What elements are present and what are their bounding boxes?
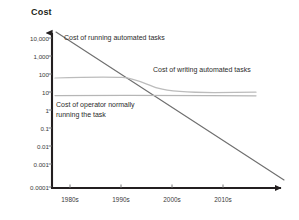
y-axis [49,33,53,188]
x-tick-label-2000s: 2000s [163,196,180,203]
y-tick-label-10000: 10,000 [30,35,49,42]
series-label-running-automated-tasks: Cost of running automated tasks [64,33,165,42]
y-tick-label-10: 10 [42,89,49,96]
y-axis-title: Cost [31,7,52,17]
series-label-operator-running-task-line1: Cost of operator normally [56,100,135,109]
y-tick-label-0.0001: 0.0001 [30,184,49,191]
y-tick-label-0.001: 0.001 [34,161,49,168]
x-axis [51,185,281,189]
y-tick-label-1000: 1,000 [34,53,49,60]
series-label-writing-automated-tasks: Cost of writing automated tasks [153,65,251,74]
y-tick-label-0.01: 0.01 [37,143,49,150]
series-label-operator-running-task-line2: running the task [56,110,106,119]
y-tick-label-0.1: 0.1 [40,125,49,132]
x-tick-label-1980s: 1980s [61,196,78,203]
series-line-writing-automated-tasks [55,77,256,93]
y-tick-label-100: 100 [39,71,49,78]
y-tick-label-1: 1 [46,107,49,114]
x-tick-label-1990s: 1990s [112,196,129,203]
cost-comparison-chart: Cost 10,000 1,000 100 10 1 0.1 0.01 0.00… [0,0,299,220]
x-tick-label-2010s: 2010s [214,196,231,203]
